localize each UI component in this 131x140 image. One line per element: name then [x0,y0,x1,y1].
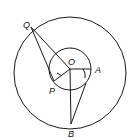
segment-QO [31,27,70,69]
label-B: B [68,129,74,139]
angle-mark-A [83,69,85,78]
segment-OP [54,69,70,81]
label-A: A [94,65,101,75]
label-Q: Q [23,20,30,30]
label-P: P [49,86,55,96]
segment-QP [31,27,54,81]
segment-B-inner [71,83,86,124]
geometry-diagram: Q O A P B [0,0,131,140]
segment-OB [70,69,71,124]
angle-mark-P [57,73,62,76]
label-O: O [68,57,75,67]
